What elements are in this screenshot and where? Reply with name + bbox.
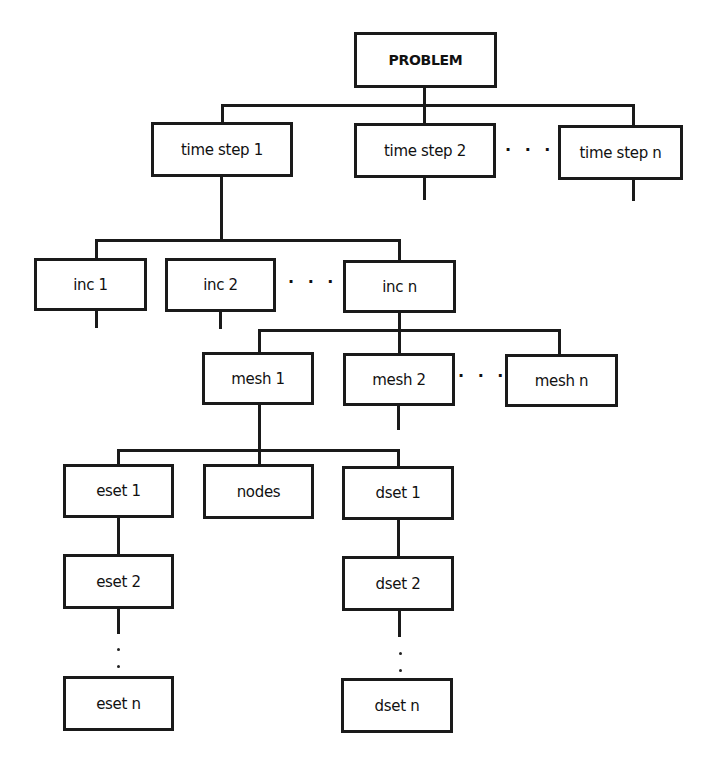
node-time-step-2: time step 2 — [354, 123, 496, 178]
node-mesh-2: mesh 2 — [343, 353, 455, 406]
node-inc-n: inc n — [343, 260, 456, 313]
connector-set-bar — [117, 449, 400, 452]
stub-time-step-n — [632, 179, 635, 201]
connector-inc-bar — [95, 239, 401, 242]
node-dset-2: dset 2 — [342, 556, 454, 611]
node-dset-1: dset 1 — [342, 466, 454, 520]
stub-eset-2 — [117, 608, 120, 634]
node-time-step-n: time step n — [558, 125, 683, 180]
node-mesh-n: mesh n — [505, 354, 618, 407]
connector-to-incn — [398, 239, 401, 261]
ellipsis-time-steps: · · · — [505, 140, 554, 159]
connector-timestep-bar — [221, 104, 635, 107]
node-inc-2: inc 2 — [165, 258, 276, 312]
connector-to-timestepn — [632, 104, 635, 126]
node-time-step-1: time step 1 — [151, 122, 293, 177]
vertical-ellipsis-dsets — [399, 652, 403, 676]
node-nodes: nodes — [203, 464, 314, 519]
connector-timestep1-trunk — [220, 176, 223, 242]
node-dset-n: dset n — [341, 678, 453, 733]
node-inc-1: inc 1 — [34, 258, 147, 311]
connector-incn-trunk — [398, 312, 401, 354]
stub-mesh-2 — [397, 405, 400, 430]
node-mesh-1: mesh 1 — [202, 352, 314, 405]
connector-mesh1-trunk — [258, 404, 261, 465]
connector-to-timestep2 — [423, 104, 426, 124]
connector-mesh-bar — [258, 329, 560, 332]
connector-to-inc1 — [95, 239, 98, 259]
hierarchy-diagram: PROBLEM time step 1 time step 2 · · · ti… — [0, 0, 725, 764]
node-eset-1: eset 1 — [63, 464, 174, 518]
connector-to-eset1 — [117, 449, 120, 465]
stub-inc-2 — [219, 311, 222, 329]
ellipsis-meshes: · · · — [458, 366, 507, 385]
ellipsis-incs: · · · — [288, 272, 337, 291]
connector-eset1-eset2 — [117, 517, 120, 555]
node-eset-2: eset 2 — [63, 554, 174, 609]
node-problem: PROBLEM — [354, 32, 497, 88]
connector-to-mesh1 — [258, 329, 261, 353]
stub-dset-2 — [398, 610, 401, 637]
connector-to-timestep1 — [221, 104, 224, 124]
connector-dset1-dset2 — [397, 519, 400, 557]
connector-to-dset1 — [397, 449, 400, 467]
stub-inc-1 — [95, 310, 98, 328]
vertical-ellipsis-esets — [117, 648, 121, 672]
stub-time-step-2 — [423, 177, 426, 200]
node-eset-n: eset n — [63, 676, 174, 731]
connector-to-meshn — [558, 329, 561, 355]
